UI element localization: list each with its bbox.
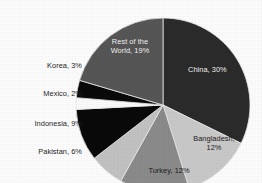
pie-slice-label-indonesia: Indonesia, 9% — [2, 120, 82, 129]
pie-chart-figure: China, 30% Bangladesh, 12% Turkey, 12% R… — [0, 0, 262, 183]
pie-slice-label-pakistan: Pakistan, 6% — [8, 148, 82, 157]
pie-slice-label-korea: Korea, 3% — [8, 62, 82, 71]
pie-slice-label-mexico: Mexico, 2% — [8, 90, 82, 99]
pie-slice-group — [76, 18, 250, 183]
